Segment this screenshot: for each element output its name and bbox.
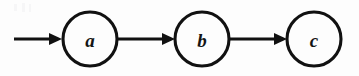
node-c-label: c — [310, 30, 319, 51]
node-a-label: a — [85, 30, 95, 51]
diagram-canvas: a b c — [0, 0, 359, 76]
edge-b-to-c — [229, 33, 287, 45]
edge-start-to-a-arrowhead — [49, 33, 62, 45]
edge-a-to-b-arrowhead — [162, 33, 175, 45]
node-b-label: b — [197, 30, 207, 51]
state-chain-diagram: a b c — [0, 0, 359, 76]
node-b[interactable]: b — [175, 12, 229, 66]
node-c[interactable]: c — [287, 12, 341, 66]
node-a[interactable]: a — [63, 12, 117, 66]
edge-a-to-b — [117, 33, 175, 45]
edge-start-to-a — [14, 33, 62, 45]
edge-b-to-c-arrowhead — [274, 33, 287, 45]
